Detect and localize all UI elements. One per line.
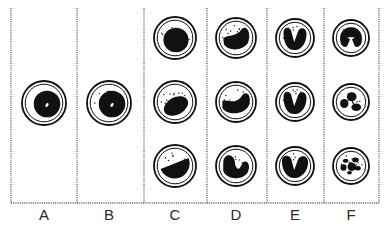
granule <box>235 159 236 160</box>
granule <box>296 26 297 27</box>
granule <box>166 100 167 101</box>
cell-f-3-nucleus <box>355 166 361 171</box>
cell-e-3-membrane <box>276 147 314 185</box>
granule <box>346 155 347 156</box>
stage-label-d: D <box>221 206 251 223</box>
granule <box>293 29 294 30</box>
granule <box>172 153 173 154</box>
granule <box>356 164 357 165</box>
cell-f-3-nucleus <box>343 159 348 163</box>
granule <box>163 94 164 95</box>
granule <box>294 91 295 92</box>
granule <box>165 157 166 158</box>
granule <box>233 25 234 26</box>
granule <box>161 101 162 102</box>
granule <box>178 92 179 93</box>
granule <box>169 93 170 94</box>
granule <box>168 160 169 161</box>
granule <box>225 95 226 96</box>
stage-label-e: E <box>280 206 310 223</box>
granule <box>182 92 183 93</box>
granule <box>242 91 243 92</box>
cell-f-2-nucleus <box>351 104 361 112</box>
granule <box>294 157 295 158</box>
granule <box>237 31 238 32</box>
granule <box>99 93 100 94</box>
granule <box>161 33 162 34</box>
cell-c-1-nucleus <box>163 28 188 52</box>
granule <box>173 155 174 156</box>
cell-e-2-membrane <box>276 83 314 121</box>
granule <box>225 29 226 30</box>
granule <box>171 27 172 28</box>
stage-label-c: C <box>160 206 190 223</box>
granule <box>173 94 174 95</box>
cell-e-1-membrane <box>276 19 314 57</box>
granule <box>229 99 230 100</box>
cell-f-3-nucleus <box>352 158 359 163</box>
granule <box>295 93 296 94</box>
granule <box>94 102 95 103</box>
cell-f-3-nucleus <box>347 171 352 175</box>
granule <box>293 159 294 160</box>
cell-d-3-membrane <box>216 146 256 186</box>
granule <box>184 95 185 96</box>
granule <box>239 28 240 29</box>
stage-label-b: B <box>94 206 124 223</box>
granule <box>165 102 166 103</box>
granule <box>227 33 228 34</box>
granule <box>359 101 360 102</box>
granule <box>293 27 294 28</box>
granule <box>230 30 231 31</box>
granule <box>162 34 163 35</box>
granule <box>235 156 236 157</box>
stage-label-a: A <box>29 206 59 223</box>
granule <box>224 99 225 100</box>
granule <box>297 89 298 90</box>
cell-f-3-nucleus <box>341 164 347 171</box>
cell-f-2-membrane <box>333 84 369 120</box>
granule <box>222 37 223 38</box>
granule <box>237 89 238 90</box>
granule <box>293 153 294 154</box>
granule <box>238 159 239 160</box>
granule <box>358 162 359 163</box>
cell-maturation-diagram <box>0 0 387 231</box>
granule <box>293 89 294 90</box>
granule <box>356 101 357 102</box>
stage-label-f: F <box>336 206 366 223</box>
granule <box>361 164 362 165</box>
